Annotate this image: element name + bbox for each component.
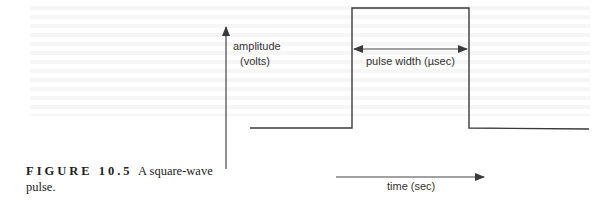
- figure-number: FIGURE 10.5: [26, 164, 133, 178]
- pulse-waveform: [250, 8, 589, 129]
- y-axis-label: amplitude: [233, 40, 281, 52]
- figure-caption: FIGURE 10.5 A square-wave pulse.: [26, 163, 216, 195]
- y-axis-unit: (volts): [240, 55, 270, 67]
- time-axis-label: time (sec): [387, 180, 435, 192]
- pulse-width-label: pulse width (µsec): [366, 55, 455, 67]
